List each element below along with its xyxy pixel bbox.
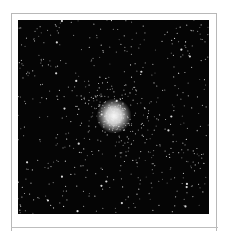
caption-divider (11, 227, 218, 228)
star-field-image (18, 20, 209, 214)
star-cluster-photo (18, 20, 209, 214)
